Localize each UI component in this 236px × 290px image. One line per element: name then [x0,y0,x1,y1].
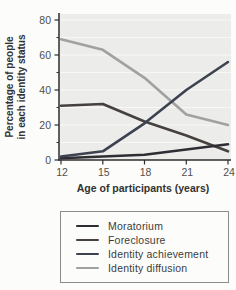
legend-label: Foreclosure [108,234,166,246]
legend-swatch-identity-diffusion [76,267,99,270]
y-tick-label-40: 40 [39,84,51,96]
legend-label: Identity diffusion [108,262,187,274]
y-tick-label-60: 60 [39,49,51,61]
y-tick-label-0: 0 [45,154,51,166]
x-axis-title: Age of participants (years) [77,182,209,194]
x-tick-label-15: 15 [98,166,110,178]
legend-item-identity-diffusion: Identity diffusion [76,261,224,275]
legend-label: Moratorium [108,220,163,232]
y-tick-label-80: 80 [39,14,51,26]
legend-item-moratorium: Moratorium [76,219,224,233]
figure-identity-status: 0204060801215182124Percentage of peoplei… [0,0,236,290]
legend-item-foreclosure: Foreclosure [76,233,224,247]
x-tick-label-12: 12 [56,166,68,178]
chart-legend: MoratoriumForeclosureIdentity achievemen… [60,211,229,283]
y-tick-label-20: 20 [39,119,51,131]
y-axis-title-line1: Percentage of people [4,36,15,138]
x-tick-label-24: 24 [223,166,235,178]
identity-status-chart: 0204060801215182124Percentage of peoplei… [0,0,236,200]
legend-swatch-identity-achievement [76,253,99,256]
legend-item-identity-achievement: Identity achievement [76,247,224,261]
legend-swatch-moratorium [76,225,99,228]
legend-swatch-foreclosure [76,239,99,242]
y-axis-title-line2: in each identity status [16,34,27,139]
plot-area [59,14,231,160]
legend-label: Identity achievement [108,248,208,260]
x-tick-label-21: 21 [181,166,193,178]
x-tick-label-18: 18 [140,166,152,178]
